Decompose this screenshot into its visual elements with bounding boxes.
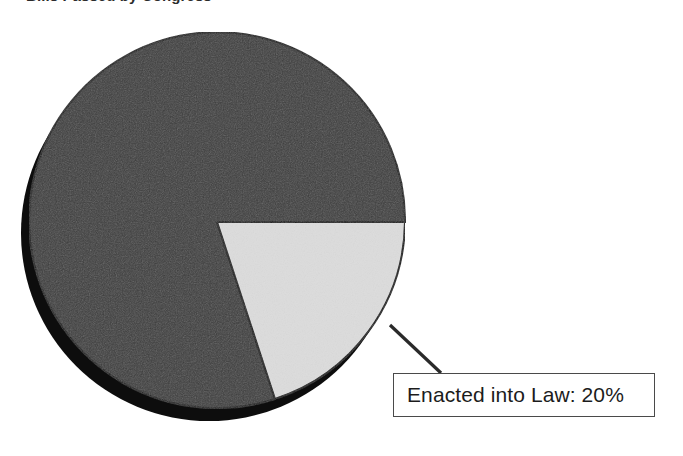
callout-label-box: Enacted into Law: 20% (393, 373, 655, 417)
pie-chart-figure: Bills Passed by Congress (0, 0, 683, 456)
callout-leader-line (390, 325, 441, 373)
callout-label-text: Enacted into Law: 20% (407, 383, 624, 407)
